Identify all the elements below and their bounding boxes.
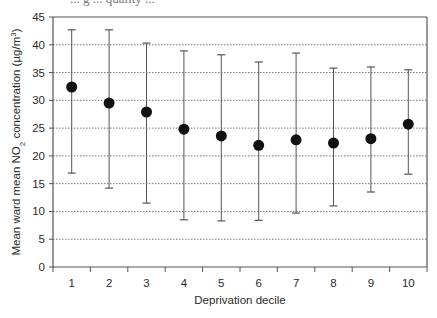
data-point-marker xyxy=(291,134,302,145)
x-tick-labels: 12345678910 xyxy=(68,277,414,289)
y-tick-label: 0 xyxy=(39,261,45,273)
x-tick-label: 3 xyxy=(143,277,149,289)
y-tick-label: 45 xyxy=(32,11,45,23)
y-axis-label: Mean ward mean NO2 concentration (µg/m3) xyxy=(9,28,27,255)
data-point-group xyxy=(141,43,152,203)
y-tick-label: 40 xyxy=(32,39,45,51)
data-point-marker xyxy=(253,140,264,151)
y-tick-label: 15 xyxy=(32,178,45,190)
data-point-group xyxy=(253,62,264,220)
x-tick-label: 10 xyxy=(402,277,415,289)
data-point-marker xyxy=(403,119,414,130)
data-point-group xyxy=(216,55,227,221)
data-point-group xyxy=(178,51,189,220)
data-point-group xyxy=(104,30,115,188)
data-series xyxy=(66,30,414,221)
data-point-marker xyxy=(328,138,339,149)
x-tick-label: 9 xyxy=(368,277,374,289)
y-tick-label: 20 xyxy=(32,150,45,162)
x-tick-label: 1 xyxy=(68,277,74,289)
x-tick-label: 2 xyxy=(106,277,112,289)
chart: 051015202530354045 12345678910 Deprivati… xyxy=(0,0,437,318)
data-point-group xyxy=(66,30,77,173)
axes xyxy=(49,17,427,272)
y-tick-label: 25 xyxy=(32,122,45,134)
data-point-marker xyxy=(66,82,77,93)
data-point-group xyxy=(403,70,414,174)
data-point-marker xyxy=(141,107,152,118)
x-tick-label: 6 xyxy=(255,277,261,289)
x-tick-label: 7 xyxy=(293,277,299,289)
data-point-group xyxy=(365,67,376,192)
x-tick-label: 5 xyxy=(218,277,224,289)
y-tick-label: 35 xyxy=(32,67,45,79)
y-tick-label: 10 xyxy=(32,205,45,217)
data-point-marker xyxy=(178,124,189,135)
data-point-marker xyxy=(365,133,376,144)
x-tick-label: 4 xyxy=(181,277,188,289)
data-point-marker xyxy=(104,98,115,109)
y-tick-label: 5 xyxy=(39,233,45,245)
y-tick-label: 30 xyxy=(32,94,45,106)
data-point-group xyxy=(291,53,302,213)
x-tick-label: 8 xyxy=(330,277,336,289)
data-point-group xyxy=(328,68,339,206)
x-axis-label: Deprivation decile xyxy=(194,294,285,306)
y-tick-labels: 051015202530354045 xyxy=(32,11,45,273)
data-point-marker xyxy=(216,130,227,141)
